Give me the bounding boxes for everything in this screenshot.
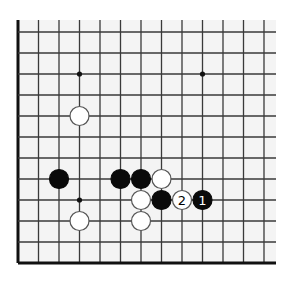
- board-background: [0, 0, 293, 281]
- black-stone: [132, 170, 151, 189]
- black-stone: [50, 170, 69, 189]
- move-number-label: 2: [178, 193, 186, 208]
- white-stone: [132, 212, 151, 231]
- black-stone-icon: [132, 170, 151, 189]
- white-stone: [132, 191, 151, 210]
- go-board: 21: [0, 0, 293, 281]
- star-point-icon: [200, 71, 205, 76]
- move-number-label: 1: [198, 193, 206, 208]
- star-point-icon: [77, 197, 82, 202]
- white-stone-icon: [132, 191, 151, 210]
- white-stone: 2: [173, 191, 192, 210]
- white-stone: [70, 107, 89, 126]
- go-board-diagram: 21: [0, 0, 293, 281]
- black-stone: 1: [193, 191, 212, 210]
- black-stone-icon: [111, 170, 130, 189]
- white-stone-icon: [132, 212, 151, 231]
- white-stone: [152, 170, 171, 189]
- black-stone-icon: [152, 191, 171, 210]
- white-stone-icon: [70, 212, 89, 231]
- black-stone-icon: [50, 170, 69, 189]
- black-stone: [111, 170, 130, 189]
- white-stone: [70, 212, 89, 231]
- star-point-icon: [77, 71, 82, 76]
- white-stone-icon: [152, 170, 171, 189]
- black-stone: [152, 191, 171, 210]
- white-stone-icon: [70, 107, 89, 126]
